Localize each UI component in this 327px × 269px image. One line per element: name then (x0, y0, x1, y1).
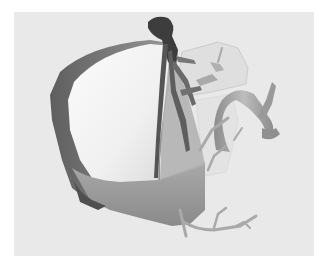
liver-vessel-render (0, 0, 327, 269)
image-frame (0, 0, 327, 269)
